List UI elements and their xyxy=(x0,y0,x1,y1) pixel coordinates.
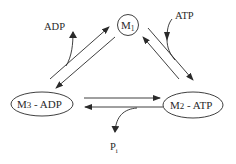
pi-release-arrow xyxy=(115,108,137,132)
node-m2-atp: M2 - ATP xyxy=(163,92,223,118)
node-m1-label: M1 xyxy=(121,19,135,33)
node-m3-adp: M3 - ADP xyxy=(11,92,73,116)
reaction-cycle-diagram: M1 M3 - ADP M2 - ATP ADP ATP Pi xyxy=(0,0,236,164)
node-m2-atp-label: M2 - ATP xyxy=(170,99,212,111)
adp-label: ADP xyxy=(44,21,65,32)
atp-arrowhead-icon xyxy=(164,32,170,41)
arrow-m1-to-m3 xyxy=(56,37,115,88)
arrow-m3-to-m1 xyxy=(50,27,109,79)
node-m1: M1 xyxy=(118,15,139,36)
adp-release-arrow xyxy=(66,32,73,66)
atp-binding-arrow xyxy=(167,19,175,60)
atp-label: ATP xyxy=(175,10,194,21)
pi-label: Pi xyxy=(110,141,118,155)
node-m3-adp-label: M3 - ADP xyxy=(17,98,62,110)
